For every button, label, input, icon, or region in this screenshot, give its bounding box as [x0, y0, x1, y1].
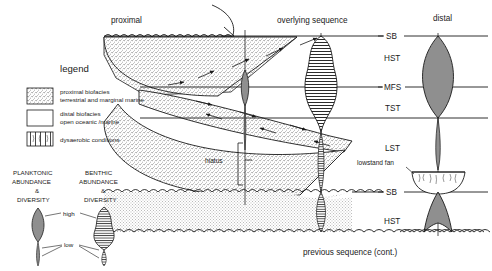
distal-column: [400, 36, 490, 232]
label-hst-low: HST: [384, 217, 400, 226]
distal-spindle-hst-tst: [423, 36, 454, 118]
legend-swatch-proximal-biofacies: [27, 88, 53, 104]
key-planktonic-line4: DIVERSITY: [17, 196, 50, 203]
pointer-curve: [212, 5, 234, 35]
lowstand-fan-lens: [412, 172, 465, 194]
figure-canvas: proximal overlying sequence distal previ…: [0, 0, 492, 271]
label-lst: LST: [385, 144, 400, 153]
label-tst: TST: [385, 104, 400, 113]
key-low-label: low: [64, 241, 74, 248]
lowstand-fan-leader: [406, 167, 414, 174]
distal-spindle-lst: [436, 118, 441, 170]
label-previous-sequence: previous sequence (cont.): [303, 248, 397, 257]
legend-swatch-dysaerobic: [27, 132, 53, 146]
label-proximal: proximal: [111, 16, 142, 25]
key-planktonic-line1: PLANKTONIC: [13, 169, 53, 176]
spindle-midleft: [241, 70, 249, 150]
key-leader-lines: [42, 213, 99, 258]
label-distal: distal: [433, 14, 452, 23]
legend-item-1-line1: distal biofacies: [60, 110, 101, 117]
label-sb-low: SB: [386, 188, 397, 197]
legend-item-1-line2: open oceanic /marine: [60, 118, 120, 125]
bottom-stipple-block: [104, 192, 283, 232]
legend-item-0-line2: terrestrial and marginal marine: [60, 96, 144, 103]
legend-item-0-line1: proximal biofacies: [60, 88, 110, 95]
label-lowstand-fan: lowstand fan: [357, 159, 394, 166]
key-planktonic-line3: &: [35, 187, 40, 194]
key-planktonic-line2: ABUNDANCE: [12, 178, 51, 185]
legend-heading: legend: [60, 63, 89, 74]
key-benthic-line4: DIVERSITY: [84, 196, 117, 203]
label-hst-top: HST: [384, 54, 400, 63]
label-mfs: MFS: [384, 83, 402, 92]
label-sb-top: SB: [386, 32, 397, 41]
key-benthic-line2: ABUNDANCE: [79, 178, 118, 185]
key-symbol-planktonic: [32, 208, 44, 266]
label-overlying-sequence: overlying sequence: [277, 16, 348, 25]
key-high-label: high: [63, 210, 75, 217]
key-benthic-line1: BENTHIC: [85, 169, 113, 176]
legend-swatch-distal-biofacies: [27, 110, 53, 126]
stratigraphy-diagram: proximal overlying sequence distal previ…: [0, 0, 492, 271]
legend-item-2-line1: dysaerobic conditions: [60, 136, 120, 143]
label-hiatus: hiatus: [205, 157, 223, 164]
